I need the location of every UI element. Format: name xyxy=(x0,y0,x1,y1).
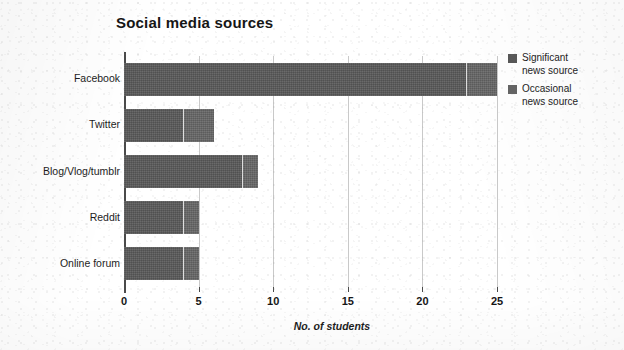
bar-segment-significant xyxy=(124,109,184,142)
x-tick-mark-15 xyxy=(348,287,349,292)
bar-segment-occasional xyxy=(243,155,258,188)
y-axis-label: Twitter xyxy=(8,118,120,130)
bar-segment-significant xyxy=(124,247,184,280)
x-tick-mark-20 xyxy=(422,287,423,292)
x-tick-mark-0 xyxy=(124,287,125,292)
bar-segment-occasional xyxy=(467,63,497,96)
bar-segment-occasional xyxy=(184,109,214,142)
bar-row xyxy=(124,201,199,234)
legend-label: Significantnews source xyxy=(522,52,578,77)
bar-segment-occasional xyxy=(184,201,199,234)
y-axis-label: Blog/Vlog/tumblr xyxy=(8,165,120,177)
y-axis-label: Facebook xyxy=(8,72,120,84)
legend-label-line2: news source xyxy=(522,65,578,78)
legend-swatch-significant xyxy=(508,54,517,63)
bar-row xyxy=(124,109,214,142)
y-axis-label: Reddit xyxy=(8,211,120,223)
x-tick-mark-25 xyxy=(497,287,498,292)
legend-swatch-occasional xyxy=(508,85,517,94)
bar-segment-significant xyxy=(124,155,243,188)
legend-label-line1: Significant xyxy=(522,52,578,65)
legend-item: Significantnews source xyxy=(508,52,620,77)
legend-label-line1: Occasional xyxy=(522,83,578,96)
x-tick-label: 5 xyxy=(196,295,202,307)
x-tick-mark-10 xyxy=(273,287,274,292)
legend-item: Occasionalnews source xyxy=(508,83,620,108)
bar-row xyxy=(124,247,199,280)
x-tick-mark-5 xyxy=(199,287,200,292)
chart-title: Social media sources xyxy=(116,14,273,31)
legend-label: Occasionalnews source xyxy=(522,83,578,108)
bar-segment-occasional xyxy=(184,247,199,280)
x-tick-label: 20 xyxy=(416,295,428,307)
bar-row xyxy=(124,155,258,188)
x-tick-label: 0 xyxy=(121,295,127,307)
legend-label-line2: news source xyxy=(522,96,578,109)
bar-segment-significant xyxy=(124,63,467,96)
y-axis-label: Online forum xyxy=(8,257,120,269)
bar-segment-significant xyxy=(124,201,184,234)
bar-row xyxy=(124,63,497,96)
gridline-25 xyxy=(497,56,498,287)
x-axis-title: No. of students xyxy=(0,320,624,332)
x-tick-label: 15 xyxy=(342,295,354,307)
chart-legend: Significantnews sourceOccasionalnews sou… xyxy=(508,52,620,114)
x-tick-label: 10 xyxy=(267,295,279,307)
x-tick-label: 25 xyxy=(491,295,503,307)
plot-area xyxy=(124,56,497,287)
